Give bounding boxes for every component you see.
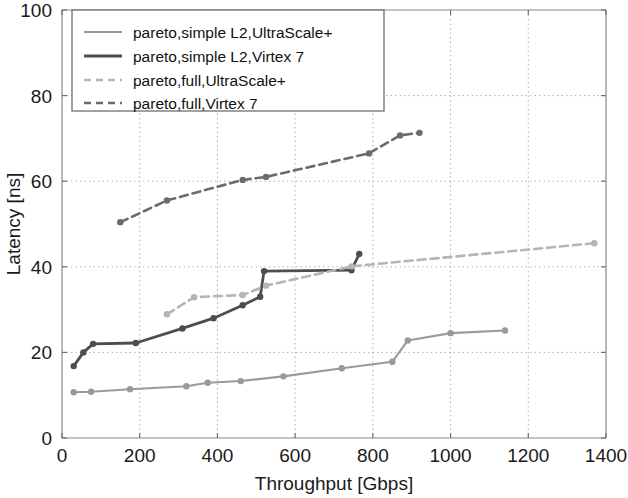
y-axis-title: Latency [ns] [3,173,24,275]
data-point [238,378,244,384]
y-tick-label: 0 [41,428,52,449]
data-point [397,132,403,138]
chart-figure: 0200400600800100012001400 020406080100 T… [0,0,628,498]
data-point [205,380,211,386]
data-point [416,130,422,136]
legend-label-0: pareto,simple L2,UltraScale+ [133,24,332,41]
x-tick-label: 1400 [585,445,627,466]
data-point [389,359,395,365]
x-axis-tick-labels: 0200400600800100012001400 [57,445,627,466]
data-point [80,349,86,355]
data-point [70,363,76,369]
y-tick-label: 20 [31,342,52,363]
x-tick-label: 1200 [507,445,549,466]
x-tick-label: 800 [357,445,389,466]
data-point [191,294,197,300]
data-point [127,386,133,392]
legend-label-2: pareto,full,UltraScale+ [133,72,286,89]
data-point [117,219,123,225]
x-tick-label: 600 [279,445,311,466]
data-point [133,340,139,346]
x-tick-label: 0 [57,445,68,466]
y-tick-label: 40 [31,257,52,278]
y-tick-label: 100 [20,0,52,21]
legend-label-3: pareto,full,Virtex 7 [133,95,258,112]
y-tick-label: 80 [31,86,52,107]
data-point [405,337,411,343]
data-point [280,373,286,379]
data-point [257,294,263,300]
data-point [210,315,216,321]
data-point [356,251,362,257]
data-point [261,268,267,274]
x-tick-label: 200 [124,445,156,466]
data-point [348,263,354,269]
data-point [70,389,76,395]
data-point [90,341,96,347]
data-point [366,150,372,156]
data-point [502,327,508,333]
legend-label-1: pareto,simple L2,Virtex 7 [133,48,304,65]
data-point [263,174,269,180]
chart-legend: pareto,simple L2,UltraScale+pareto,simpl… [72,10,384,112]
data-point [164,197,170,203]
data-point [447,330,453,336]
y-axis-tick-labels: 020406080100 [20,0,52,449]
data-point [183,383,189,389]
x-axis-title: Throughput [Gbps] [255,473,413,494]
data-point [263,282,269,288]
data-point [239,177,245,183]
data-point [179,325,185,331]
data-point [164,311,170,317]
latency-throughput-line-chart: 0200400600800100012001400 020406080100 T… [0,0,628,498]
data-point [88,389,94,395]
data-point [239,302,245,308]
y-tick-label: 60 [31,171,52,192]
data-point [591,240,597,246]
data-point [339,365,345,371]
data-point [239,292,245,298]
x-tick-label: 1000 [429,445,471,466]
x-tick-label: 400 [202,445,234,466]
